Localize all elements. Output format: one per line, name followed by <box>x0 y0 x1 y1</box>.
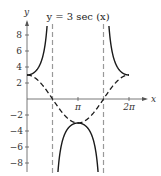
y-tick-label: −2 <box>10 110 23 120</box>
x-tick-label: π <box>74 102 82 112</box>
y-tick-label: 6 <box>16 46 22 56</box>
chart-title: y = 3 sec (x) <box>45 11 109 22</box>
x-axis-label: x <box>151 94 156 104</box>
y-tick-label: 4 <box>16 62 22 72</box>
y-axis-ticks: 8642−2−4−6−8 <box>10 30 29 168</box>
x-tick-label: 2π <box>122 102 136 112</box>
y-tick-label: 2 <box>16 78 22 88</box>
y-tick-label: −6 <box>10 142 24 152</box>
y-tick-label: 8 <box>16 30 22 40</box>
y-tick-label: −8 <box>10 158 24 168</box>
x-axis-arrow-icon <box>142 97 148 101</box>
y-axis-arrow-icon <box>25 20 29 26</box>
axes <box>25 20 148 172</box>
y-tick-label: −4 <box>10 126 24 136</box>
y-axis-label: y <box>23 7 30 17</box>
sec-function-graph: y = 3 sec (x) 8642−2−4−6−8 π2π x y <box>0 0 161 176</box>
